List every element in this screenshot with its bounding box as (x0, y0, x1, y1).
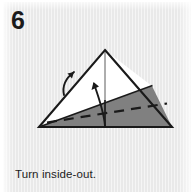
step-caption: Turn inside-out. (15, 168, 96, 180)
origami-step-card: 6 Turn inside-out. (0, 0, 194, 194)
origami-diagram (0, 0, 194, 194)
